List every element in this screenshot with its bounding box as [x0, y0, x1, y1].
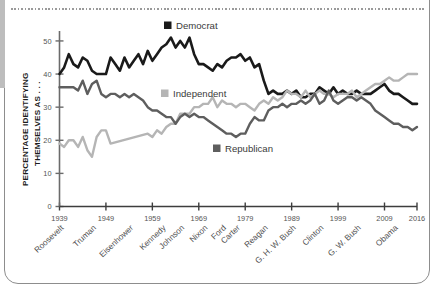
y-axis-title: PERCENTAGE IDENTIFYING THEMSELVES AS . .… [21, 72, 42, 186]
legend-swatch-democrat [164, 22, 172, 30]
y-tick-label: 0 [47, 202, 51, 211]
y-tick-label: 20 [43, 136, 51, 145]
x-tick-label: 1989 [283, 214, 299, 223]
president-label: Roosevelt [33, 223, 66, 255]
chart-legend: Democrat Independent Republican [161, 20, 273, 154]
president-label: Reagan [243, 223, 270, 249]
y-tick-label: 10 [43, 169, 51, 178]
legend-swatch-independent [161, 90, 169, 98]
president-label: Truman [71, 223, 98, 249]
x-tick-label: 1939 [51, 214, 67, 223]
x-axis-ticks: 193919491959196919791989199920092016 [51, 203, 425, 223]
x-tick-label: 1999 [330, 214, 346, 223]
y-axis-title-line1: PERCENTAGE IDENTIFYING [21, 72, 30, 186]
president-label: Obama [374, 223, 400, 248]
y-axis-title-line2: THEMSELVES AS . . . [33, 81, 42, 166]
legend-label-republican: Republican [225, 143, 273, 154]
president-label: Nixon [188, 223, 210, 244]
chart-figure: PERCENTAGE IDENTIFYING THEMSELVES AS . .… [0, 0, 439, 294]
legend-swatch-republican [213, 145, 221, 153]
x-tick-label: 2009 [376, 214, 392, 223]
x-tick-label: 1969 [191, 214, 207, 223]
legend-label-democrat: Democrat [176, 20, 218, 31]
x-tick-label: 1979 [237, 214, 253, 223]
legend-label-independent: Independent [173, 88, 227, 99]
y-tick-label: 30 [43, 103, 51, 112]
party-identification-line-chart: PERCENTAGE IDENTIFYING THEMSELVES AS . .… [0, 0, 439, 294]
y-tick-label: 50 [43, 37, 51, 46]
president-label: Clinton [301, 223, 326, 247]
president-label: Eisenhower [98, 223, 136, 259]
x-tick-label: 1949 [98, 214, 114, 223]
x-tick-label: 2016 [409, 214, 425, 223]
series-line-republican [60, 81, 418, 137]
x-tick-label: 1959 [144, 214, 160, 223]
y-axis-ticks: 01020304050 [43, 37, 63, 212]
president-label: G. W. Bush [326, 223, 363, 258]
president-labels: RooseveltTrumanEisenhowerKennedyJohnsonN… [33, 223, 400, 266]
series-lines [60, 38, 418, 157]
y-tick-label: 40 [43, 70, 51, 79]
